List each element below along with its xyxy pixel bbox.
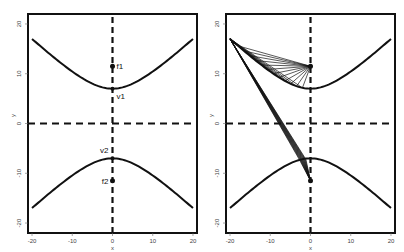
- y-tick-label: 20: [16, 20, 22, 27]
- plot-panel-left: f1v1v2f2-20-1001020x20100-10-20y: [10, 14, 197, 251]
- x-tick-label: 20: [388, 238, 395, 244]
- x-tick-label: 0: [111, 238, 115, 244]
- x-tick-label: 20: [190, 238, 197, 244]
- y-tick-label: 0: [16, 121, 22, 125]
- y-axis-title: y: [10, 114, 16, 117]
- x-tick-label: -20: [226, 238, 235, 244]
- y-tick-label: 10: [16, 70, 22, 77]
- y-axis-title: y: [208, 114, 214, 117]
- y-tick-label: 10: [214, 70, 220, 77]
- label-v1: v1: [117, 92, 126, 101]
- point-v1: [111, 87, 115, 91]
- x-tick-label: 10: [149, 238, 156, 244]
- label-v2: v2: [100, 146, 109, 155]
- x-tick-label: 10: [347, 238, 354, 244]
- point-f2: [110, 178, 115, 183]
- x-tick-label: -20: [28, 238, 37, 244]
- x-tick-label: -10: [68, 238, 77, 244]
- plot-panel-right: -20-1001020x20100-10-20y: [208, 14, 395, 251]
- point-f1: [308, 64, 313, 69]
- point-f1: [110, 64, 115, 69]
- x-axis-title: x: [309, 245, 312, 251]
- y-tick-label: -10: [214, 168, 220, 177]
- label-f1: f1: [117, 62, 124, 71]
- fan-segment: [230, 39, 302, 88]
- y-tick-label: -10: [16, 168, 22, 177]
- y-tick-label: 20: [214, 20, 220, 27]
- x-tick-label: 0: [309, 238, 313, 244]
- point-f2: [308, 178, 313, 183]
- y-tick-label: -20: [214, 218, 220, 227]
- y-tick-label: 0: [214, 121, 220, 125]
- fan-segment-lower: [230, 39, 306, 159]
- x-axis-title: x: [111, 245, 114, 251]
- x-tick-label: -10: [266, 238, 275, 244]
- label-f2: f2: [102, 177, 109, 186]
- chart-canvas: f1v1v2f2-20-1001020x20100-10-20y-20-1001…: [0, 0, 404, 252]
- point-v2: [111, 156, 115, 160]
- fan-segment-to-focus: [297, 66, 311, 86]
- y-tick-label: -20: [16, 218, 22, 227]
